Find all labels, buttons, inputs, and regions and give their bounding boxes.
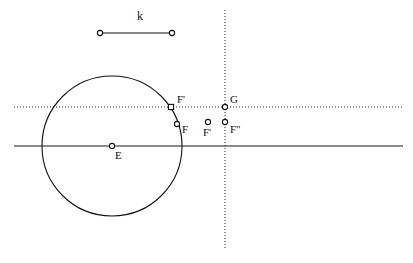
point-G-marker[interactable] (222, 104, 227, 109)
point-G-label: G (230, 94, 238, 105)
point-F-prime-free-marker[interactable] (205, 119, 210, 124)
point-E-marker[interactable] (109, 143, 114, 148)
segment-endpoint-right-marker[interactable] (169, 30, 174, 35)
point-F-prime-free-label: F' (203, 127, 211, 138)
point-F-prime-on-circle-marker[interactable] (168, 104, 173, 109)
point-F-marker[interactable] (174, 121, 179, 126)
segment-k-label: k (137, 10, 143, 22)
segment-endpoint-left-marker[interactable] (97, 30, 102, 35)
point-E-label: E (115, 150, 122, 161)
point-F-label: F (182, 124, 188, 135)
figure-canvas: k E F' F F' F" G (0, 0, 413, 263)
point-F-prime-on-circle-label: F' (177, 94, 185, 105)
point-F-double-prime-marker[interactable] (222, 119, 227, 124)
point-F-double-prime-label: F" (230, 124, 241, 135)
